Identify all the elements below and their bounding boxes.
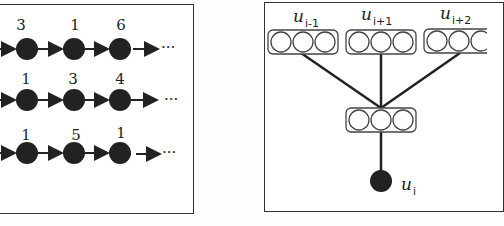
sequence-row-3: 1 5 1 ··· bbox=[0, 124, 176, 164]
vector-label: u bbox=[293, 6, 304, 26]
row3-value-2: 5 bbox=[71, 126, 81, 144]
vector-subscript: i+2 bbox=[452, 14, 471, 27]
row3-value-3: 1 bbox=[116, 124, 126, 142]
row3-value-1: 1 bbox=[21, 126, 31, 144]
node-icon bbox=[63, 142, 85, 164]
row3-ellipsis: ··· bbox=[162, 143, 176, 161]
hidden-vector bbox=[346, 108, 416, 132]
row2-value-2: 3 bbox=[68, 70, 78, 88]
sequence-row-1: 3 1 6 ··· bbox=[0, 16, 175, 60]
vector-subscript: i-1 bbox=[305, 17, 319, 30]
node-icon bbox=[109, 38, 131, 60]
vector-label: u bbox=[361, 4, 372, 24]
row2-value-3: 4 bbox=[115, 70, 125, 88]
row1-value-1: 3 bbox=[16, 16, 26, 34]
output-node-icon bbox=[370, 170, 392, 192]
output-subscript: i bbox=[413, 185, 416, 198]
output-node: u i bbox=[370, 170, 416, 198]
sequence-row-2: 1 3 4 ··· bbox=[0, 70, 178, 111]
node-icon bbox=[16, 89, 38, 111]
node-icon bbox=[16, 142, 38, 164]
node-icon bbox=[63, 89, 85, 111]
row1-value-2: 1 bbox=[70, 16, 80, 34]
output-label: u bbox=[401, 174, 412, 194]
input-vector-next: u i+1 bbox=[346, 4, 416, 54]
vector-label: u bbox=[440, 3, 451, 23]
row2-value-1: 1 bbox=[21, 70, 31, 88]
row1-value-3: 6 bbox=[116, 16, 126, 34]
node-icon bbox=[109, 142, 131, 164]
vector-subscript: i+1 bbox=[373, 15, 392, 28]
node-icon bbox=[109, 89, 131, 111]
row2-ellipsis: ··· bbox=[164, 90, 178, 108]
input-vector-next2: u i+2 bbox=[424, 3, 487, 53]
input-vector-prev: u i-1 bbox=[268, 6, 338, 54]
node-icon bbox=[63, 38, 85, 60]
row1-ellipsis: ··· bbox=[161, 38, 175, 56]
node-icon bbox=[16, 38, 38, 60]
